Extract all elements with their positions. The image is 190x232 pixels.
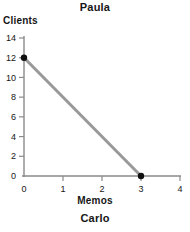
data-point-marker xyxy=(21,55,27,61)
y-tick-label: 10 xyxy=(6,73,16,83)
y-tick-label: 8 xyxy=(11,92,16,102)
data-point-marker xyxy=(138,173,144,179)
series-line xyxy=(24,58,141,176)
x-tick-label: 2 xyxy=(99,184,104,194)
chart-figure: Paula Clients 02468101214 01234 Memos Ca… xyxy=(0,0,190,232)
y-tick-label: 0 xyxy=(11,171,16,181)
y-tick-label: 12 xyxy=(6,53,16,63)
chart-caption: Carlo xyxy=(0,212,190,224)
y-tick-label: 6 xyxy=(11,112,16,122)
x-axis: 01234 xyxy=(21,176,182,194)
y-axis-ticks: 02468101214 xyxy=(6,33,24,181)
y-tick-label: 14 xyxy=(6,33,16,43)
y-tick-label: 4 xyxy=(11,132,16,142)
y-axis: 02468101214 xyxy=(6,33,24,181)
x-tick-label: 1 xyxy=(60,184,65,194)
x-axis-label: Memos xyxy=(0,195,190,206)
x-tick-label: 0 xyxy=(21,184,26,194)
x-axis-ticks: 01234 xyxy=(21,176,182,194)
data-series xyxy=(21,55,144,180)
y-tick-label: 2 xyxy=(11,151,16,161)
x-tick-label: 4 xyxy=(177,184,182,194)
x-tick-label: 3 xyxy=(138,184,143,194)
